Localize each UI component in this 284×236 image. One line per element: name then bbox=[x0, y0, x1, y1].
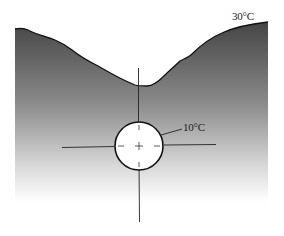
crosshair-vertical-bottom bbox=[139, 162, 140, 222]
core-temp-label: 10°C bbox=[183, 121, 205, 133]
shaded-region bbox=[15, 22, 268, 202]
core-circle bbox=[115, 122, 163, 170]
crosshair-horizontal-right bbox=[164, 145, 216, 146]
surface-temp-label: 30°C bbox=[232, 10, 254, 22]
diagram-canvas bbox=[0, 0, 284, 236]
